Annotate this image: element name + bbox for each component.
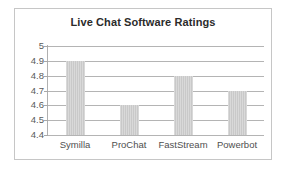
bar [228, 91, 247, 136]
x-axis-tick-label: FastStream [158, 139, 207, 150]
chart-title: Live Chat Software Ratings [15, 16, 271, 28]
y-axis-tick-mark [44, 120, 48, 121]
y-axis-tick-mark [44, 105, 48, 106]
y-axis-tick-mark [44, 91, 48, 92]
bar-series [48, 46, 264, 135]
y-axis-tick-mark [44, 46, 48, 47]
y-axis-tick-label: 4.8 [15, 71, 44, 81]
y-axis-tick-label: 4.5 [15, 115, 44, 125]
plot-area [48, 46, 264, 135]
x-axis-tick-label: ProChat [112, 139, 147, 150]
bar [66, 61, 85, 135]
y-axis-tick-mark [44, 76, 48, 77]
y-axis-tick-label: 4.4 [15, 130, 44, 140]
gridline [48, 135, 264, 136]
x-axis-tick-labels: SymillaProChatFastStreamPowerbot [48, 139, 264, 155]
y-axis-tick-label: 4.7 [15, 86, 44, 96]
x-axis-tick-label: Powerbot [217, 139, 257, 150]
y-axis-tick-mark [44, 61, 48, 62]
y-axis-tick-label: 4.6 [15, 100, 44, 110]
bar [174, 76, 193, 135]
y-axis-tick-labels: 54.94.84.74.64.54.4 [15, 46, 44, 135]
chart-frame: Live Chat Software Ratings 54.94.84.74.6… [14, 8, 272, 160]
y-axis-tick-mark [44, 135, 48, 136]
y-axis-tick-label: 5 [15, 41, 44, 51]
x-axis-tick-label: Symilla [60, 139, 91, 150]
y-axis-tick-label: 4.9 [15, 56, 44, 66]
bar [120, 105, 139, 135]
